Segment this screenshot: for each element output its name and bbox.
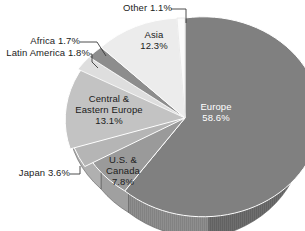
slice-label-cee-line1: Central & — [89, 93, 130, 104]
slice-label-usca-line1: U.S. & — [109, 154, 137, 165]
slice-label-central-eastern-europe: Central & Eastern Europe 13.1% — [58, 93, 160, 126]
slice-label-usca-value: 7.8% — [112, 176, 134, 187]
slice-label-asia: Asia 12.3% — [118, 29, 190, 51]
slice-label-asia-name: Asia — [145, 29, 164, 40]
slice-label-africa: Africa 1.7% — [6, 35, 80, 46]
slice-label-asia-value: 12.3% — [140, 40, 167, 51]
slice-label-cee-line2: Eastern Europe — [75, 104, 142, 115]
slice-label-japan: Japan 3.6% — [4, 167, 70, 178]
slice-label-other: Other 1.1% — [100, 2, 172, 13]
slice-label-europe-value: 58.6% — [202, 112, 229, 123]
slice-label-usca-line2: Canada — [106, 165, 140, 176]
leader-line-japan — [70, 166, 80, 174]
slice-label-cee-value: 13.1% — [95, 115, 122, 126]
slice-label-europe: Europe 58.6% — [178, 101, 254, 123]
slice-label-us-canada: U.S. & Canada 7.8% — [89, 154, 157, 187]
pie-chart: Other 1.1% Africa 1.7% Latin America 1.8… — [0, 0, 305, 231]
slice-label-europe-name: Europe — [200, 101, 231, 112]
slice-label-latin-america: Latin America 1.8% — [0, 47, 90, 58]
